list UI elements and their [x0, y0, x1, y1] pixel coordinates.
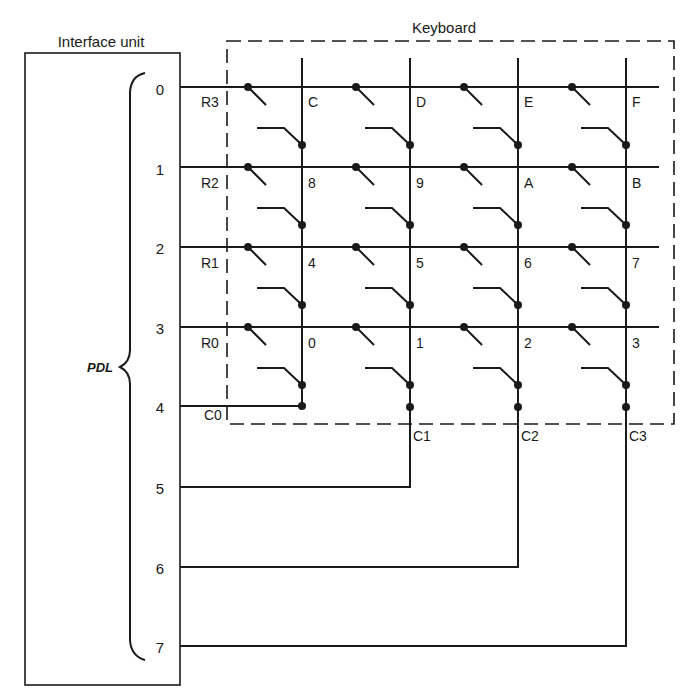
key-switch [352, 323, 414, 389]
row-label-r2: R2 [201, 175, 219, 191]
key-switch [460, 323, 522, 389]
key-switch [352, 163, 414, 229]
column-lines [302, 58, 626, 646]
column-return-wires [180, 406, 626, 646]
pin-5: 5 [156, 480, 164, 497]
key-label: 3 [632, 335, 640, 351]
pin-2: 2 [156, 240, 164, 257]
key-switch [244, 323, 306, 389]
pdl-brace [120, 73, 145, 660]
key-label: 4 [308, 255, 316, 271]
key-label: 6 [524, 255, 532, 271]
key-switch [568, 163, 630, 229]
keyboard: Keyboard [227, 19, 674, 424]
junction-dot [406, 403, 414, 411]
pin-0: 0 [156, 81, 164, 98]
row-label-r1: R1 [201, 255, 219, 271]
junction-dot [622, 403, 630, 411]
pin-7: 7 [156, 639, 164, 656]
column-label-c2: C2 [521, 428, 539, 444]
keyboard-outline [227, 41, 674, 424]
keyboard-title: Keyboard [412, 19, 476, 36]
key-label: 8 [308, 175, 316, 191]
interface-unit-title: Interface unit [58, 33, 146, 50]
row-label-r3: R3 [201, 94, 219, 110]
key-label: 9 [416, 175, 424, 191]
key-switch [460, 83, 522, 149]
key-label: 7 [632, 255, 640, 271]
key-switch [460, 163, 522, 229]
key-label: B [632, 175, 641, 191]
key-switch [244, 163, 306, 229]
column-label-c3: C3 [629, 428, 647, 444]
pin-1: 1 [156, 161, 164, 178]
column-label-c1: C1 [413, 428, 431, 444]
key-label: C [308, 94, 318, 110]
pin-3: 3 [156, 320, 164, 337]
key-labels: C D E F 8 9 A B 4 5 6 7 0 1 2 3 [308, 94, 641, 351]
key-label: D [416, 94, 426, 110]
key-label: 1 [416, 335, 424, 351]
junction-dot [514, 403, 522, 411]
key-label: 5 [416, 255, 424, 271]
key-label: A [524, 175, 534, 191]
key-label: F [632, 94, 641, 110]
key-switch [244, 243, 306, 309]
key-switch [460, 243, 522, 309]
key-switch [352, 83, 414, 149]
key-switch [568, 323, 630, 389]
pin-6: 6 [156, 560, 164, 577]
junction-dot [298, 402, 306, 410]
keyboard-matrix-diagram: Interface unit PDL 0 1 2 3 4 5 6 7 Keybo… [0, 0, 699, 700]
pin-4: 4 [156, 399, 164, 416]
wire-pin7-c3 [180, 407, 626, 646]
key-label: E [524, 94, 533, 110]
key-label: 2 [524, 335, 532, 351]
key-switch [352, 243, 414, 309]
key-label: 0 [308, 335, 316, 351]
interface-unit: Interface unit PDL 0 1 2 3 4 5 6 7 [25, 33, 180, 685]
column-label-c0: C0 [204, 407, 222, 423]
key-switch [244, 83, 306, 149]
row-label-r0: R0 [201, 335, 219, 351]
pdl-label: PDL [87, 360, 113, 375]
key-switch [568, 243, 630, 309]
key-switch [568, 83, 630, 149]
